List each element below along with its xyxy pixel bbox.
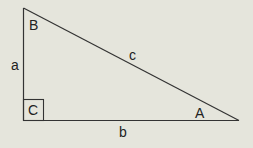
right-triangle-diagram: B C A a b c [0, 0, 253, 148]
angle-b-label: B [29, 17, 38, 33]
side-c-label: c [129, 47, 136, 63]
angle-a-label: A [195, 105, 205, 121]
angle-c-label: C [28, 102, 38, 118]
side-a-label: a [11, 57, 19, 73]
side-b-label: b [119, 124, 127, 140]
